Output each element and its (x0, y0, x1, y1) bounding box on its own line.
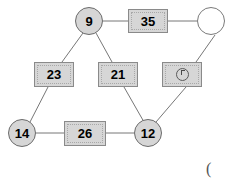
node-circle-12[interactable]: 12 (134, 119, 162, 147)
edge-23-14 (30, 87, 48, 122)
edge-9-23 (62, 33, 83, 62)
node-label: 21 (111, 67, 125, 82)
ring-tick-mark-icon (176, 68, 189, 81)
node-label: 9 (85, 14, 92, 29)
node-circle-9[interactable]: 9 (75, 7, 103, 35)
node-rect-26[interactable]: 26 (64, 121, 106, 146)
node-label: 23 (47, 67, 61, 82)
edge-empty-glyph (196, 35, 215, 62)
node-rect-35[interactable]: 35 (128, 9, 168, 33)
node-label: 14 (15, 126, 29, 141)
edge-9-21 (96, 33, 112, 62)
edge-layer (0, 0, 230, 181)
graph-diagram: 9 35 23 21 14 26 12 ( (0, 0, 230, 181)
edge-glyph-12 (156, 87, 186, 122)
node-rect-23[interactable]: 23 (34, 62, 74, 87)
node-label: 26 (78, 126, 92, 141)
edge-21-12 (124, 87, 144, 122)
node-circle-empty[interactable] (197, 7, 225, 35)
node-circle-14[interactable]: 14 (8, 119, 36, 147)
node-rect-21[interactable]: 21 (98, 62, 138, 87)
corner-annotation: ( (206, 160, 211, 178)
node-label: 12 (141, 126, 155, 141)
node-rect-glyph[interactable] (162, 62, 202, 87)
node-label: 35 (141, 14, 155, 29)
